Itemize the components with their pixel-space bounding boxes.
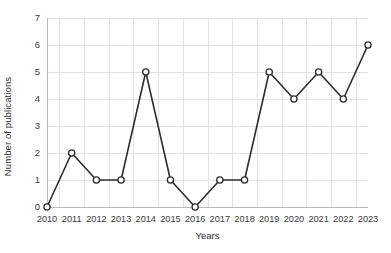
x-tick-label: 2022 (333, 214, 353, 224)
data-point-marker (118, 177, 124, 183)
x-tick-label: 2023 (358, 214, 378, 224)
publications-line-chart: Number of publications Years 01234567 20… (0, 0, 391, 253)
data-point-marker (44, 204, 50, 210)
data-point-marker (241, 177, 247, 183)
data-point-marker (291, 96, 297, 102)
data-point-marker (316, 69, 322, 75)
data-point-marker (340, 96, 346, 102)
x-tick-label: 2017 (210, 214, 230, 224)
x-tick-label: 2011 (62, 214, 82, 224)
data-point-marker (365, 42, 371, 48)
plot-area: 01234567 2010201120122013201420152016201… (0, 0, 391, 253)
y-tick-label: 7 (35, 12, 40, 23)
x-tick-label: 2010 (37, 214, 57, 224)
x-tick-label: 2016 (185, 214, 205, 224)
x-tick-label: 2012 (86, 214, 106, 224)
x-tick-label: 2013 (111, 214, 131, 224)
x-tick-label: 2014 (136, 214, 156, 224)
data-point-marker (192, 204, 198, 210)
data-point-marker (217, 177, 223, 183)
y-tick-label: 0 (35, 201, 40, 212)
y-tick-label: 6 (35, 39, 40, 50)
y-tick-label: 5 (35, 66, 40, 77)
vertical-gridlines (60, 18, 357, 207)
data-point-marker (266, 69, 272, 75)
y-tick-label: 1 (35, 174, 40, 185)
data-point-marker (69, 150, 75, 156)
x-tick-label: 2018 (234, 214, 254, 224)
x-tick-labels: 2010201120122013201420152016201720182019… (37, 214, 378, 224)
data-point-marker (143, 69, 149, 75)
y-tick-labels: 01234567 (35, 12, 40, 212)
y-tick-label: 2 (35, 147, 40, 158)
y-tick-label: 4 (35, 93, 40, 104)
x-tick-label: 2019 (259, 214, 279, 224)
data-point-marker (93, 177, 99, 183)
y-tick-label: 3 (35, 120, 40, 131)
data-point-marker (167, 177, 173, 183)
x-tick-label: 2015 (160, 214, 180, 224)
x-tick-label: 2020 (284, 214, 304, 224)
x-tick-label: 2021 (308, 214, 328, 224)
